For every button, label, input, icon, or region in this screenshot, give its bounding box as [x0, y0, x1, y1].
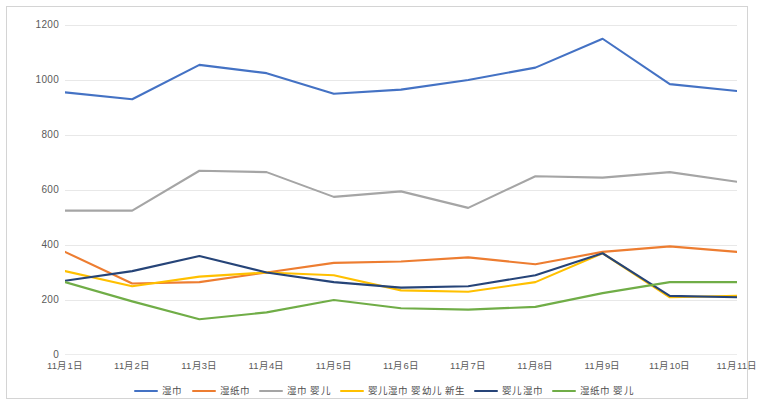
x-axis-tick-label: 11月10日: [649, 359, 691, 373]
series-line-2: [65, 171, 737, 211]
legend-color-swatch: [134, 390, 158, 393]
series-line-0: [65, 39, 737, 100]
y-axis-tick-label: 1000: [36, 75, 59, 85]
y-axis-tick-label: 400: [41, 240, 59, 250]
legend-label: 湿纸巾 婴儿: [580, 385, 634, 397]
x-axis-tick-label: 11月6日: [383, 359, 419, 373]
legend-item[interactable]: 湿纸巾 婴儿: [552, 385, 634, 397]
y-axis-tick-label: 800: [41, 130, 59, 140]
legend-color-swatch: [552, 390, 576, 393]
y-axis: 020040060080010001200: [15, 25, 63, 355]
x-axis-tick-label: 11月8日: [517, 359, 553, 373]
legend-item[interactable]: 婴儿湿巾 婴幼儿 新生: [340, 385, 465, 397]
x-axis-tick-label: 11月4日: [249, 359, 285, 373]
x-axis-tick-label: 11月9日: [585, 359, 621, 373]
legend-label: 湿纸巾: [220, 385, 251, 397]
y-axis-tick-label: 200: [41, 295, 59, 305]
plot-svg: [65, 25, 737, 355]
legend-label: 婴儿湿巾: [502, 385, 543, 397]
plot-area: [65, 25, 737, 355]
chart-frame: 020040060080010001200 11月1日11月2日11月3日11月…: [6, 6, 748, 399]
series-line-1: [65, 246, 737, 283]
series-group: [65, 39, 737, 320]
legend-label: 婴儿湿巾 婴幼儿 新生: [368, 385, 465, 397]
x-axis-tick-label: 11月1日: [47, 359, 83, 373]
legend-color-swatch: [474, 390, 498, 393]
legend-item[interactable]: 婴儿湿巾: [474, 385, 543, 397]
chart-legend: 湿巾湿纸巾湿巾 婴儿婴儿湿巾 婴幼儿 新生婴儿湿巾湿纸巾 婴儿: [7, 385, 760, 397]
x-axis-tick-label: 11月3日: [181, 359, 217, 373]
y-axis-tick-label: 1200: [36, 20, 59, 30]
x-axis-tick-label: 11月5日: [316, 359, 352, 373]
x-axis-tick-label: 11月11日: [717, 359, 758, 373]
y-axis-tick-label: 600: [41, 185, 59, 195]
legend-label: 湿巾 婴儿: [287, 385, 331, 397]
x-axis-tick-label: 11月7日: [450, 359, 486, 373]
x-axis-tick-label: 11月2日: [114, 359, 150, 373]
legend-color-swatch: [259, 390, 283, 393]
legend-color-swatch: [192, 390, 216, 393]
legend-color-swatch: [340, 390, 364, 393]
legend-item[interactable]: 湿纸巾: [192, 385, 251, 397]
x-axis: 11月1日11月2日11月3日11月4日11月5日11月6日11月7日11月8日…: [65, 359, 737, 375]
legend-item[interactable]: 湿巾: [134, 385, 182, 397]
legend-label: 湿巾: [162, 385, 182, 397]
legend-item[interactable]: 湿巾 婴儿: [259, 385, 331, 397]
